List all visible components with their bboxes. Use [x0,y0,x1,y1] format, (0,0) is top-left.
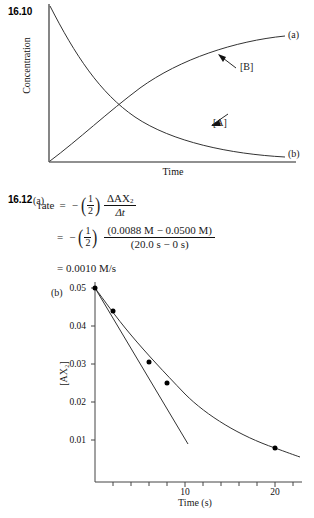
annotation-label-concentration-b: [B] [240,61,253,72]
minus-sign-1: − [72,199,78,211]
textbook-solution-page: 16.10 Concentration Time (a) (b) [B] [A]… [0,0,314,518]
denominator-two-1: 2 [87,205,94,217]
denominator-two-2: 2 [84,237,91,249]
concentration-change-fraction: (0.0088 M − 0.0500 M) (20.0 s − 0 s) [104,224,215,250]
figure-1612b-svg [0,276,314,518]
data-point-t2 [111,309,116,314]
equation-line-1: rate = − ( 1 2 ) ΔAX2 Δt [38,192,136,219]
figure-1612b-chart [0,276,314,518]
figure-1610-y-axis-label: Concentration [21,23,32,109]
fraction-one-half-2: 1 2 [84,226,91,248]
annotation-arrow-b-head [218,54,226,62]
x-tick-label-10: 10 [173,487,197,497]
decay-curve [95,288,300,457]
coefficient-one-half-1: ( 1 2 ) [80,194,101,216]
data-point-t6 [147,360,152,365]
y-tick-label-0050: 0.05 [52,283,86,293]
concentration-difference-numerator: (0.0088 M − 0.0500 M) [104,224,215,238]
delta-ax-subscript: 2 [130,197,134,205]
problem-number-1612: 16.12 [8,194,32,205]
equation-line-2: = − ( 1 2 ) (0.0088 M − 0.0500 M) (20.0 … [57,224,215,250]
y-tick-label-0010: 0.01 [52,435,86,445]
figure-1610-svg [0,0,314,186]
tangent-line-at-zero [95,288,188,444]
left-paren-1: ( [81,195,86,216]
delta-fraction-1: ΔAX2 Δt [104,192,136,219]
data-point-t0 [93,286,98,291]
curve-tag-b: (b) [288,148,300,159]
curve-tag-a: (a) [288,29,299,40]
right-paren-2: ) [92,227,97,248]
delta-ax2-numerator: ΔAX2 [104,192,136,206]
rate-result: = 0.0010 M/s [57,262,116,274]
equals-sign-1: = [59,199,65,211]
equals-sign-2: = [57,231,63,243]
time-difference-denominator: (20.0 s − 0 s) [128,238,192,251]
chart-y-axis-label: [AX₂] [58,352,69,396]
data-point-t8 [165,381,170,386]
right-paren-1: ) [95,195,100,216]
figure-1610-x-axis-label: Time [146,166,200,177]
delta-ax-text: ΔAX [107,192,130,204]
annotation-label-concentration-a: [A] [213,117,227,128]
minus-sign-2: − [69,231,75,243]
equation-line-3: = 0.0010 M/s [57,262,116,274]
curve-product-b [50,36,285,161]
curve-reactant-a [50,6,285,157]
figure-1610: Concentration Time (a) (b) [B] [A] [0,0,314,186]
chart-x-axis-label: Time (s) [160,497,230,508]
y-tick-label-0020: 0.02 [52,397,86,407]
numerator-one-2: 1 [84,226,91,237]
x-tick-label-20: 20 [263,487,287,497]
rate-word: rate [38,199,54,211]
coefficient-one-half-2: ( 1 2 ) [77,226,98,248]
left-paren-2: ( [78,227,83,248]
data-point-t20 [273,446,278,451]
y-tick-label-0040: 0.04 [52,321,86,331]
delta-t-denominator: Δt [112,206,128,219]
fraction-one-half-1: 1 2 [87,194,94,216]
numerator-one-1: 1 [87,194,94,205]
